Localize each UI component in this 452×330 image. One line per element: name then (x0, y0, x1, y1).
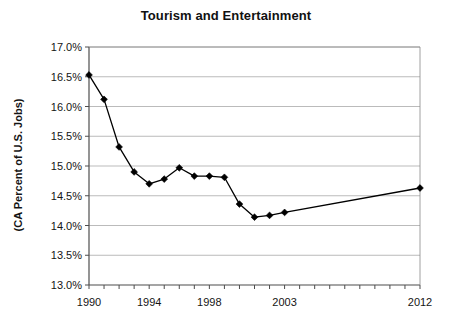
x-axis-tick-label: 2012 (408, 296, 432, 308)
data-point-marker (206, 173, 213, 180)
x-axis-tick-label: 1998 (197, 296, 221, 308)
x-axis-tick-label: 1990 (77, 296, 101, 308)
x-axis-tick-label: 1994 (137, 296, 161, 308)
chart-container: Tourism and Entertainment (CA Percent of… (0, 0, 452, 330)
gridlines (89, 47, 420, 255)
data-point-markers (86, 72, 424, 221)
data-point-marker (417, 185, 424, 192)
data-point-marker (221, 174, 228, 181)
plot-area (0, 0, 452, 330)
data-point-marker (116, 144, 123, 151)
x-axis-tick-label: 2003 (272, 296, 296, 308)
data-point-marker (191, 173, 198, 180)
data-point-marker (266, 212, 273, 219)
data-point-marker (101, 96, 108, 103)
data-point-marker (86, 72, 93, 79)
data-point-marker (281, 209, 288, 216)
